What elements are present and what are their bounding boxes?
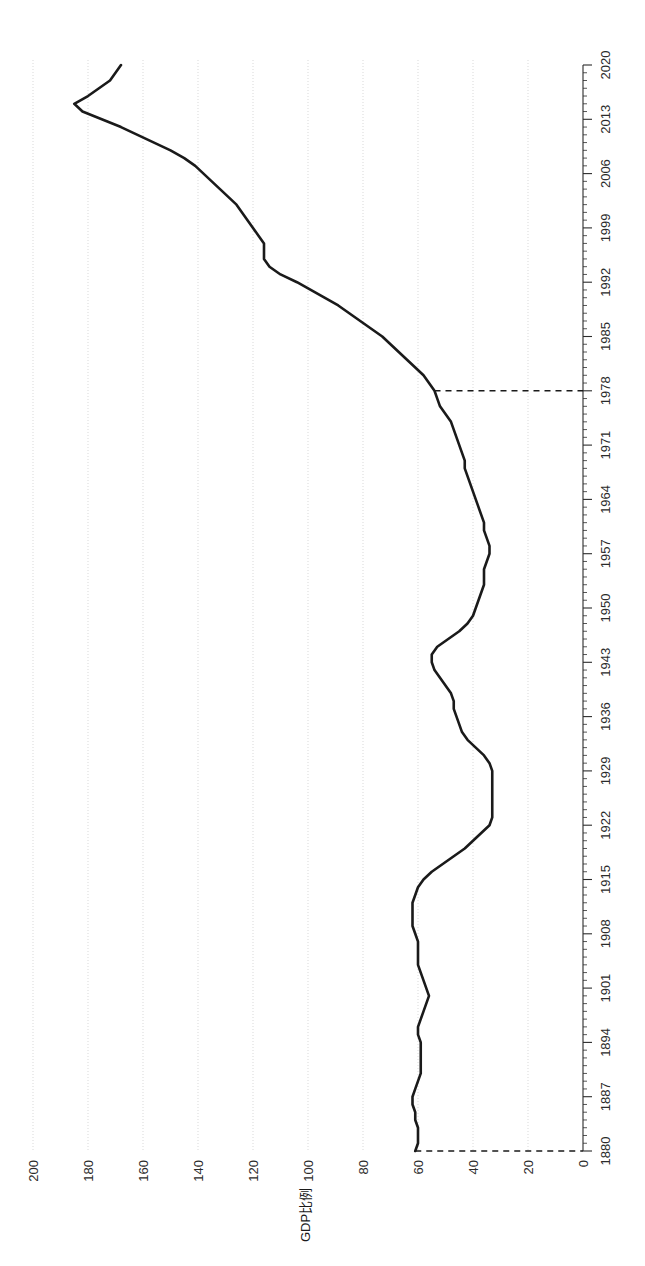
value-tick-label-120: 120 — [246, 1160, 261, 1182]
year-tick-label-1922: 1922 — [598, 811, 613, 840]
chart-container: 200180160140120100806040200 188018871894… — [0, 0, 645, 1266]
year-axis-group — [583, 65, 592, 1151]
year-tick-label-2006: 2006 — [598, 159, 613, 188]
value-tick-label-40: 40 — [466, 1160, 481, 1174]
year-tick-label-1894: 1894 — [598, 1028, 613, 1057]
year-tick-label-1936: 1936 — [598, 702, 613, 731]
gridlines-group — [33, 60, 528, 1151]
year-tick-label-1915: 1915 — [598, 865, 613, 894]
value-axis-title: GDP比例 — [298, 1188, 313, 1242]
year-tick-label-1887: 1887 — [598, 1082, 613, 1111]
year-tick-label-1978: 1978 — [598, 376, 613, 405]
value-tick-label-140: 140 — [191, 1160, 206, 1182]
year-tick-label-1880: 1880 — [598, 1137, 613, 1166]
year-tick-label-1929: 1929 — [598, 756, 613, 785]
value-tick-label-180: 180 — [81, 1160, 96, 1182]
year-tick-label-1908: 1908 — [598, 919, 613, 948]
year-tick-label-1999: 1999 — [598, 213, 613, 242]
year-tick-labels-group: 1880188718941901190819151922192919361943… — [598, 51, 613, 1166]
value-tick-label-60: 60 — [411, 1160, 426, 1174]
year-tick-label-1971: 1971 — [598, 431, 613, 460]
year-tick-label-1992: 1992 — [598, 268, 613, 297]
value-tick-label-160: 160 — [136, 1160, 151, 1182]
value-tick-label-200: 200 — [26, 1160, 41, 1182]
value-tick-labels-group: 200180160140120100806040200 — [26, 1160, 591, 1182]
line-chart-plot: 200180160140120100806040200 188018871894… — [0, 0, 645, 1266]
reference-lines-group — [415, 391, 583, 1151]
value-tick-label-20: 20 — [521, 1160, 536, 1174]
year-tick-label-1985: 1985 — [598, 322, 613, 351]
year-tick-label-1943: 1943 — [598, 648, 613, 677]
series-line — [74, 65, 492, 1151]
year-tick-label-2013: 2013 — [598, 105, 613, 134]
year-tick-label-1964: 1964 — [598, 485, 613, 514]
year-tick-label-2020: 2020 — [598, 51, 613, 80]
value-tick-label-0: 0 — [576, 1160, 591, 1167]
year-tick-label-1950: 1950 — [598, 594, 613, 623]
value-tick-label-80: 80 — [356, 1160, 371, 1174]
value-tick-label-100: 100 — [301, 1160, 316, 1182]
year-tick-label-1957: 1957 — [598, 539, 613, 568]
value-axis-title-group: GDP比例 — [298, 1188, 313, 1242]
year-tick-label-1901: 1901 — [598, 974, 613, 1003]
data-series-group — [74, 65, 492, 1151]
